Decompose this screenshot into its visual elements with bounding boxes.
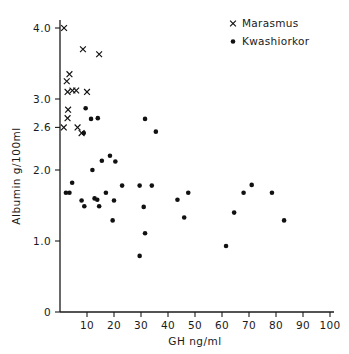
data-point-kwashiorkor (182, 215, 187, 220)
y-tick-label: 2.0 (33, 164, 51, 176)
data-point-kwashiorkor (95, 198, 100, 203)
data-point-kwashiorkor (70, 180, 75, 185)
y-tick-label: 0 (44, 306, 51, 318)
data-point-kwashiorkor (224, 244, 229, 249)
data-point-kwashiorkor (100, 158, 105, 163)
scatter-plot-figure: 01.02.02.63.04.0102030405060708090100GH … (0, 0, 349, 354)
data-point-kwashiorkor (89, 117, 94, 122)
x-tick-label: 20 (107, 319, 121, 331)
data-point-kwashiorkor (79, 198, 84, 203)
data-point-kwashiorkor (154, 129, 159, 134)
data-point-kwashiorkor (82, 204, 87, 209)
x-tick-label: 10 (80, 319, 94, 331)
data-point-kwashiorkor (141, 205, 146, 210)
data-point-kwashiorkor (67, 190, 72, 195)
legend-marker-dot (231, 39, 236, 44)
x-tick-label: 50 (188, 319, 202, 331)
data-point-kwashiorkor (175, 198, 180, 203)
data-point-kwashiorkor (150, 183, 155, 188)
legend-label: Kwashiorkor (242, 35, 310, 47)
data-point-kwashiorkor (108, 154, 113, 159)
y-tick-label: 2.6 (33, 121, 51, 133)
data-point-kwashiorkor (143, 231, 148, 236)
data-point-kwashiorkor (90, 168, 95, 173)
data-point-kwashiorkor (104, 190, 109, 195)
data-point-kwashiorkor (241, 190, 246, 195)
y-tick-label: 3.0 (33, 93, 51, 105)
y-tick-label: 1.0 (33, 235, 51, 247)
data-point-kwashiorkor (270, 190, 275, 195)
x-tick-label: 60 (215, 319, 229, 331)
legend-item-marasmus: Marasmus (230, 17, 298, 29)
x-tick-label: 80 (269, 319, 283, 331)
data-point-kwashiorkor (110, 218, 115, 223)
x-tick-label: 30 (134, 319, 148, 331)
legend-label: Marasmus (242, 17, 298, 29)
data-point-kwashiorkor (137, 183, 142, 188)
data-point-kwashiorkor (112, 198, 117, 203)
data-point-kwashiorkor (81, 131, 86, 136)
x-tick-label: 40 (161, 319, 175, 331)
x-tick-label: 100 (319, 319, 340, 331)
data-point-kwashiorkor (232, 210, 237, 215)
data-point-kwashiorkor (249, 183, 254, 188)
x-tick-label: 70 (242, 319, 256, 331)
y-axis-title: Albumin g/100ml (10, 127, 22, 224)
plot-canvas: 01.02.02.63.04.0102030405060708090100GH … (0, 0, 349, 354)
data-point-kwashiorkor (120, 183, 125, 188)
x-axis-title: GH ng/ml (168, 335, 221, 347)
x-tick-label: 90 (296, 319, 310, 331)
data-point-kwashiorkor (113, 159, 118, 164)
data-point-kwashiorkor (186, 190, 191, 195)
data-point-kwashiorkor (83, 106, 88, 111)
y-tick-label: 4.0 (33, 22, 51, 34)
data-point-kwashiorkor (282, 218, 287, 223)
legend-item-kwashiorkor: Kwashiorkor (231, 35, 310, 47)
data-point-kwashiorkor (97, 204, 102, 209)
series-kwashiorkor (64, 106, 287, 258)
data-point-kwashiorkor (143, 117, 148, 122)
data-point-kwashiorkor (137, 254, 142, 259)
data-point-kwashiorkor (96, 116, 101, 121)
